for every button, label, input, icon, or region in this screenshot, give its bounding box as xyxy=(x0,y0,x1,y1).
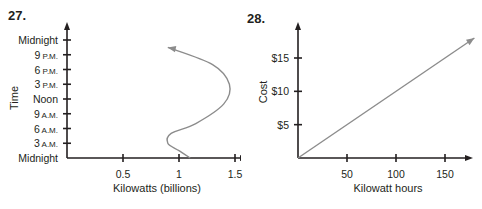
chart-27: 27. Time Midnight3 A.M.6 A.M.9 A.M.Noon3… xyxy=(0,0,241,209)
x-tick-label: 150 xyxy=(425,168,465,180)
chart-28: 28. Cost $5$10$15 50100150 Kilowatt hour… xyxy=(241,0,482,209)
x-axis-label-28: Kilowatt hours xyxy=(298,182,478,194)
x-axis-label-27: Kilowatts (billions) xyxy=(67,182,247,194)
x-tick-label: 0.5 xyxy=(103,168,143,180)
x-tick-label: 100 xyxy=(376,168,416,180)
x-tick-label: 50 xyxy=(327,168,367,180)
x-tick-label: 1 xyxy=(159,168,199,180)
